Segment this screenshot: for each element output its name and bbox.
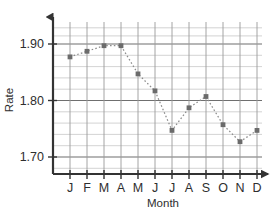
x-tick-label-jan: J [67, 181, 73, 195]
data-point-jul [170, 128, 175, 133]
data-point-sep [204, 94, 209, 99]
data-point-oct [221, 122, 226, 127]
x-tick-label-apr: A [117, 181, 126, 195]
x-tick-label-jul: J [169, 181, 175, 195]
data-point-nov [238, 139, 243, 144]
x-tick-label-aug: A [185, 181, 194, 195]
rate-by-month-line-chart: 1.90 1.80 1.70 J F M A M J J [0, 0, 279, 211]
x-tick-label-sep: S [202, 181, 210, 195]
data-point-feb [85, 49, 90, 54]
data-point-jan [68, 55, 73, 60]
x-tick-label-oct: O [218, 181, 228, 195]
data-point-jun [153, 89, 158, 94]
x-tick-label-nov: N [235, 181, 244, 195]
data-point-may [136, 72, 141, 77]
y-tick-label-1-70: 1.70 [20, 150, 44, 164]
x-tick-label-feb: F [83, 181, 91, 195]
y-tick-label-1-80: 1.80 [20, 94, 44, 108]
y-tick-label-1-90: 1.90 [20, 37, 44, 51]
data-point-dec [255, 128, 260, 133]
chart-container: 1.90 1.80 1.70 J F M A M J J [0, 0, 279, 211]
data-point-apr [119, 43, 124, 48]
x-axis-title: Month [147, 197, 179, 209]
x-tick-label-may: M [133, 181, 143, 195]
data-point-mar [102, 43, 107, 48]
data-point-aug [187, 105, 192, 110]
x-tick-label-jun: J [152, 181, 158, 195]
x-tick-label-mar: M [99, 181, 109, 195]
y-axis-title: Rate [3, 88, 15, 112]
x-tick-label-dec: D [252, 181, 261, 195]
